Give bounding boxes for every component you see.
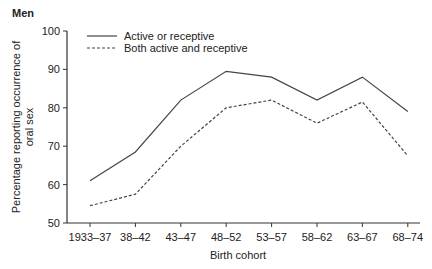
y-axis-title-line1: Percentage reporting occurrence of xyxy=(10,40,22,213)
series-lines xyxy=(90,71,408,205)
x-tick-label: 48–52 xyxy=(211,231,242,243)
y-tick-label: 90 xyxy=(48,63,60,75)
x-tick-label: 58–62 xyxy=(302,231,333,243)
line-chart: 5060708090100 1933–3738–4243–4748–5253–5… xyxy=(0,0,432,269)
y-axis-title-line2: oral sex xyxy=(23,107,35,146)
x-tick-label: 1933–37 xyxy=(69,231,112,243)
legend-label: Active or receptive xyxy=(124,30,214,42)
y-tick-label: 60 xyxy=(48,179,60,191)
y-tick-label: 100 xyxy=(42,25,60,37)
x-tick-label: 53–57 xyxy=(256,231,287,243)
x-axis: 1933–3738–4243–4748–5253–5758–6263–6768–… xyxy=(67,223,423,243)
x-axis-title: Birth cohort xyxy=(210,249,266,261)
series-line-both-active-and-receptive xyxy=(90,100,408,206)
y-tick-label: 80 xyxy=(48,102,60,114)
legend: Active or receptiveBoth active and recep… xyxy=(87,30,248,54)
x-tick-label: 43–47 xyxy=(166,231,197,243)
x-tick-label: 68–74 xyxy=(393,231,424,243)
x-tick-label: 63–67 xyxy=(347,231,378,243)
legend-label: Both active and receptive xyxy=(124,42,248,54)
y-tick-label: 70 xyxy=(48,140,60,152)
y-tick-label: 50 xyxy=(48,217,60,229)
series-line-active-or-receptive xyxy=(90,71,408,181)
x-tick-label: 38–42 xyxy=(120,231,151,243)
y-axis: 5060708090100 xyxy=(42,25,67,229)
